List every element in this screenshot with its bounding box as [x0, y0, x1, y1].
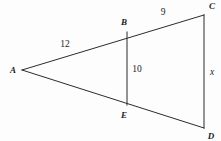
measure-label-bc: 9 — [161, 8, 166, 18]
vertex-label-a: A — [10, 66, 16, 75]
segment-AC — [22, 15, 204, 70]
measure-label-cd: x — [210, 68, 214, 78]
vertex-label-c: C — [209, 2, 215, 11]
vertex-label-b: B — [121, 18, 127, 27]
vertex-label-d: D — [208, 132, 215, 141]
segment-AD — [22, 70, 204, 128]
measure-label-ab: 12 — [60, 40, 70, 50]
vertex-label-e: E — [121, 111, 127, 120]
geometry-figure: A B C D E 12 9 10 x — [0, 0, 221, 141]
measure-label-be: 10 — [132, 65, 142, 75]
geometry-canvas — [0, 0, 221, 141]
